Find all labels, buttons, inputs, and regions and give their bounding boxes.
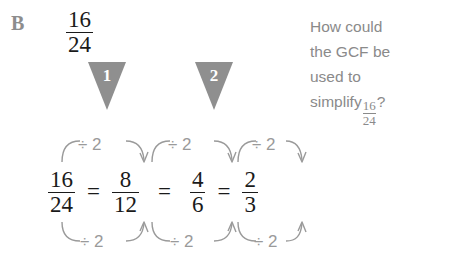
equation-term-4: 2 3	[242, 168, 258, 217]
equals-sign-2: =	[158, 179, 171, 205]
equation-term-2: 8 12	[112, 168, 139, 217]
equation-term-4-numerator: 2	[242, 168, 258, 191]
equation-chain: 16 24 = 8 12 = 4 6 = 2 3	[48, 168, 258, 217]
top-arrow-label-2: ÷ 2	[168, 135, 192, 154]
equation-term-3-numerator: 4	[190, 168, 206, 191]
bottom-arrow-label-3: ÷ 2	[254, 232, 278, 251]
equation-term-1-numerator: 16	[48, 168, 75, 191]
worksheet-figure: B 16 24 1 2 How could the GCF be used to…	[0, 0, 451, 253]
top-arrow-label-1: ÷ 2	[78, 135, 102, 154]
bottom-arrow-2	[152, 222, 236, 241]
top-arrow-2	[152, 141, 236, 162]
equals-sign-3: =	[217, 179, 230, 205]
top-arrow-1	[62, 141, 148, 162]
bottom-arrow-label-2: ÷ 2	[170, 232, 194, 251]
equation-term-1-denominator: 24	[48, 192, 75, 216]
top-arrow-label-3: ÷ 2	[252, 135, 276, 154]
bottom-arrow-1	[62, 222, 148, 241]
bottom-arrow-label-1: ÷ 2	[80, 232, 104, 251]
equation-term-3: 4 6	[190, 168, 206, 217]
equation-term-1: 16 24	[48, 168, 75, 217]
equation-term-2-numerator: 8	[118, 168, 134, 191]
equation-term-4-denominator: 3	[242, 192, 258, 216]
equation-term-3-denominator: 6	[190, 192, 206, 216]
equation-term-2-denominator: 12	[112, 192, 139, 216]
equals-sign-1: =	[87, 179, 100, 205]
